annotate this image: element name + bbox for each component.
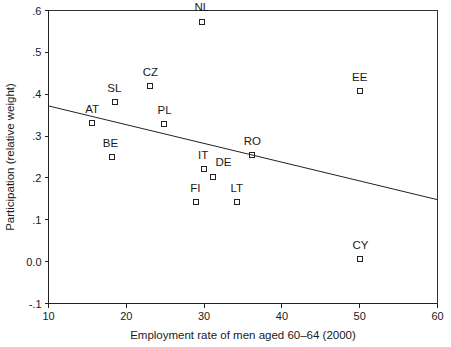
y-tick-label: .1	[32, 214, 41, 226]
data-point-marker	[113, 100, 118, 105]
y-tick-label: .2	[32, 172, 41, 184]
data-point-label: LT	[230, 182, 243, 194]
data-point: NL	[194, 1, 209, 25]
data-point: RO	[244, 135, 261, 158]
x-tick-label: 30	[198, 310, 210, 322]
y-axis-title: Participation (relative weight)	[4, 83, 16, 231]
y-tick-label: -.1	[29, 298, 42, 310]
data-point: PL	[158, 104, 173, 127]
data-point: LT	[230, 182, 243, 205]
data-point: AT	[85, 103, 99, 126]
x-tick-label: 40	[276, 310, 288, 322]
data-point-marker	[148, 84, 153, 89]
data-point-label: RO	[244, 135, 261, 147]
data-point-label: CY	[352, 239, 368, 251]
data-point-marker	[202, 166, 207, 171]
data-point-label: EE	[352, 71, 368, 83]
chart-canvas: .6.5.4.3.2.10.0-.1102030405060 NLCZEESLA…	[0, 0, 451, 347]
x-tick-label: 20	[120, 310, 132, 322]
data-point-label: PL	[158, 104, 173, 116]
x-axis-title: Employment rate of men aged 60–64 (2000)	[130, 329, 356, 341]
data-point-marker	[211, 174, 216, 179]
x-tick-label: 60	[431, 310, 443, 322]
data-point: EE	[352, 71, 368, 94]
axis-ticks	[45, 11, 438, 308]
data-point-label: BE	[103, 137, 119, 149]
data-point-label: CZ	[143, 66, 158, 78]
y-tick-label: .5	[32, 46, 41, 58]
data-point-marker	[234, 200, 239, 205]
data-point: SL	[107, 82, 122, 105]
data-point-marker	[161, 121, 166, 126]
data-point-label: SL	[107, 82, 122, 94]
y-tick-label: .3	[32, 130, 41, 142]
data-point-label: DE	[215, 156, 231, 168]
plot-frame	[49, 11, 438, 304]
x-tick-label: 50	[354, 310, 366, 322]
data-point: DE	[211, 156, 232, 180]
scatter-plot-figure: .6.5.4.3.2.10.0-.1102030405060 NLCZEESLA…	[0, 0, 451, 347]
data-point: BE	[103, 137, 119, 160]
data-point-marker	[357, 88, 362, 93]
axis-tick-labels: .6.5.4.3.2.10.0-.1102030405060	[26, 5, 443, 322]
data-point-marker	[194, 200, 199, 205]
data-point-label: FI	[190, 182, 200, 194]
data-point-marker	[358, 256, 363, 261]
y-tick-label: .6	[32, 5, 41, 17]
data-points: NLCZEESLATPLROBEITDEFILTCY	[85, 1, 369, 261]
data-point: CZ	[143, 66, 158, 89]
data-point: FI	[190, 182, 200, 205]
data-point-marker	[109, 154, 114, 159]
y-tick-label: .4	[32, 88, 41, 100]
axis-titles: Employment rate of men aged 60–64 (2000)…	[4, 83, 356, 341]
y-tick-label: 0.0	[26, 256, 41, 268]
data-point-marker	[199, 20, 204, 25]
data-point-marker	[90, 120, 95, 125]
data-point: CY	[352, 239, 368, 261]
data-point: IT	[198, 149, 208, 172]
data-point-label: NL	[194, 1, 209, 13]
x-tick-label: 10	[42, 310, 54, 322]
data-point-label: IT	[198, 149, 208, 161]
data-point-label: AT	[85, 103, 99, 115]
